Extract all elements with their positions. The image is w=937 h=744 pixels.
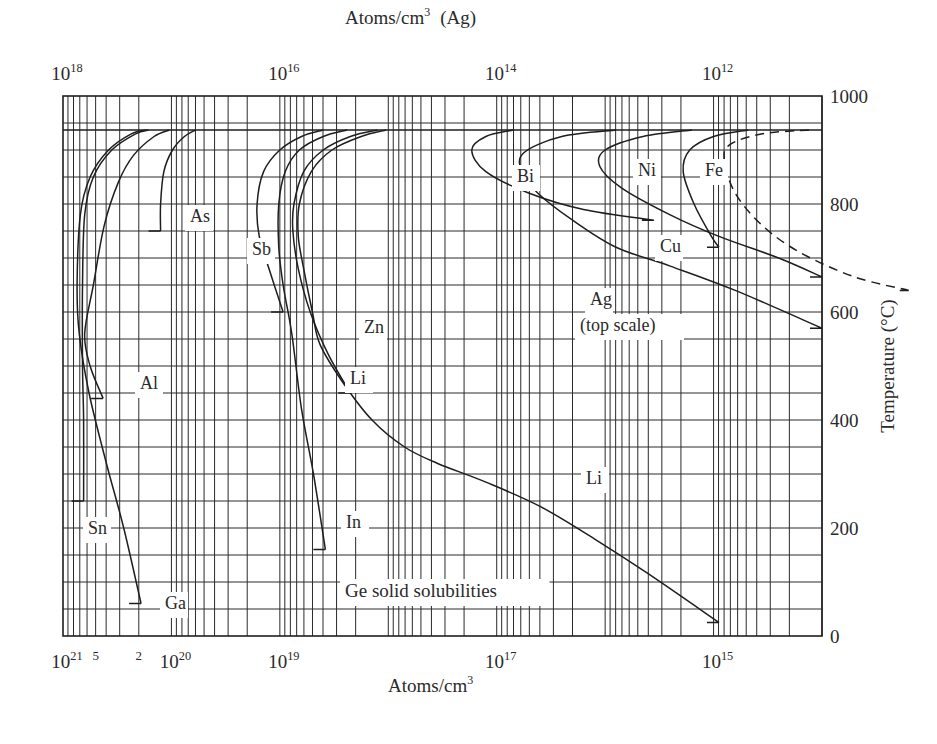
curve-label: Ag <box>590 289 612 309</box>
curve-label: Ge solid solubilities <box>345 580 497 601</box>
curve-label: Al <box>140 373 158 393</box>
tick-label: 1016 <box>268 61 299 84</box>
tick-label: 1017 <box>485 649 516 672</box>
tick-label: 1018 <box>51 61 82 84</box>
tick-label: 2 <box>136 648 143 663</box>
y-tick-label: 1000 <box>830 86 868 107</box>
curve-bi <box>472 130 654 220</box>
curve-label: In <box>346 512 361 532</box>
y-tick-label: 0 <box>830 626 840 647</box>
curve-label: Bi <box>517 166 534 186</box>
curve-label: Fe <box>705 160 723 180</box>
tick-label: 1014 <box>485 61 516 84</box>
y-tick-label: 400 <box>830 410 859 431</box>
curve-label: Ga <box>165 593 186 613</box>
curve-ni <box>598 130 822 277</box>
curve-label: (top scale) <box>580 315 655 336</box>
curve-fe <box>683 130 748 247</box>
curve-cu <box>519 130 822 328</box>
tick-label: 1019 <box>268 649 299 672</box>
curve-label: Ni <box>638 160 656 180</box>
y-tick-label: 200 <box>830 518 859 539</box>
curve-label: Sb <box>252 239 271 259</box>
right-axis-title: Temperature (°C) <box>877 299 899 432</box>
tick-label: 1015 <box>702 649 733 672</box>
y-tick-label: 600 <box>830 302 859 323</box>
curve-label: Li <box>350 368 366 388</box>
curve-ag <box>724 130 909 290</box>
curve-sn <box>72 130 149 501</box>
top-axis-title: Atoms/cm3(Ag) <box>345 5 476 29</box>
y-tick-label: 800 <box>830 194 859 215</box>
tick-label: 5 <box>92 648 99 663</box>
tick-label: 1021 <box>51 649 82 672</box>
bottom-axis-title: Atoms/cm3 <box>388 673 473 696</box>
tick-label: 1020 <box>160 649 191 672</box>
curve-label: Li <box>586 468 602 488</box>
curve-label: Cu <box>660 236 681 256</box>
curve-label: As <box>190 206 210 226</box>
curve-label: Zn <box>364 317 384 337</box>
curve-label: Sn <box>88 518 107 538</box>
tick-label: 1012 <box>702 61 733 84</box>
ge-solid-solubility-chart: AsSbZnLiAlSnInGaLiBiNiFeCuAg(top scale)G… <box>0 0 937 744</box>
curve-zn <box>292 130 377 393</box>
